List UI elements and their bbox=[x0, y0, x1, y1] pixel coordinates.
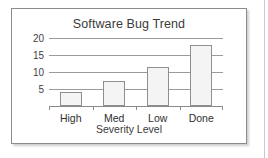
chart-title: Software Bug Trend bbox=[12, 17, 246, 31]
window-right-edge bbox=[264, 0, 265, 158]
x-axis-tick bbox=[49, 106, 50, 110]
x-axis-tick bbox=[93, 106, 94, 110]
bar[interactable] bbox=[103, 81, 125, 107]
y-tick-label: 5 bbox=[38, 84, 44, 95]
x-axis-tick bbox=[180, 106, 181, 110]
y-tick-label: 15 bbox=[33, 50, 44, 61]
screenshot-page: Software Bug Trend 5101520HighMedLowDone… bbox=[0, 0, 268, 158]
y-tick-label: 20 bbox=[33, 33, 44, 44]
x-axis-tick bbox=[222, 106, 223, 110]
bar[interactable] bbox=[147, 67, 169, 106]
bar[interactable] bbox=[190, 45, 212, 106]
gridline bbox=[49, 38, 223, 39]
y-tick-label: 10 bbox=[33, 67, 44, 78]
x-axis-title: Severity Level bbox=[12, 123, 246, 135]
x-axis-tick bbox=[136, 106, 137, 110]
plot-area: 5101520HighMedLowDone bbox=[49, 38, 223, 106]
chart-card: Software Bug Trend 5101520HighMedLowDone… bbox=[11, 8, 247, 144]
bar[interactable] bbox=[60, 92, 82, 106]
